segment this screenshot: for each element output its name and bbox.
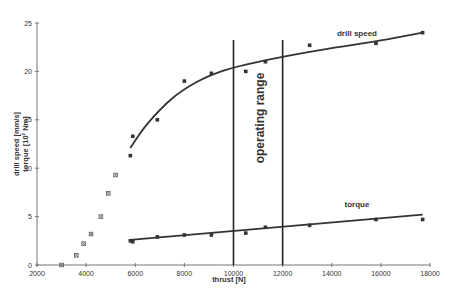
torque-point — [131, 240, 135, 244]
chart: 2000400060008000100001200014000160001800… — [0, 0, 453, 301]
y-tick-label: 5 — [28, 213, 32, 220]
tick-labels: 2000400060008000100001200014000160001800… — [24, 20, 440, 278]
initial-penetration-point — [106, 192, 110, 196]
y-axis-label-drill-speed: drill speed [mm/s] — [12, 111, 21, 176]
torque-point — [244, 231, 248, 235]
torque-point — [156, 235, 160, 239]
initial-penetration-point — [75, 254, 79, 258]
drill-speed-point — [421, 31, 425, 35]
drill-speed-point — [264, 60, 268, 64]
initial-penetration-point — [114, 173, 118, 177]
initial-penetration-point — [82, 242, 86, 246]
drill-speed-point — [129, 154, 133, 158]
drill-speed-point — [131, 134, 135, 138]
operating-range-label: operating range — [253, 72, 267, 163]
drill-speed-point — [244, 70, 248, 74]
torque-point — [210, 233, 214, 237]
y-tick-label: 0 — [28, 262, 32, 269]
y-axis-label-torque: torque [10² Nm] — [21, 116, 30, 172]
y-tick-label: 20 — [24, 68, 32, 75]
drill-speed-fit-line — [130, 33, 422, 148]
chart-svg: 2000400060008000100001200014000160001800… — [0, 0, 453, 301]
fit-curves — [130, 33, 422, 240]
x-tick-label: 12000 — [273, 270, 293, 277]
torque-point — [183, 233, 187, 237]
x-tick-label: 16000 — [371, 270, 391, 277]
initial-penetration-point — [89, 232, 93, 236]
torque-label: torque — [345, 200, 370, 209]
drill-speed-point — [374, 42, 378, 46]
x-tick-label: 8000 — [177, 270, 193, 277]
drill-speed-point — [308, 43, 312, 47]
torque-point — [421, 218, 425, 222]
y-tick-label: 25 — [24, 20, 32, 27]
x-axis-label: thrust [N] — [212, 275, 246, 284]
torque-point — [308, 224, 312, 228]
drill-speed-point — [156, 118, 160, 122]
torque-point — [264, 225, 268, 229]
x-tick-label: 4000 — [78, 270, 94, 277]
drill-speed-point — [210, 72, 214, 76]
torque-fit-line — [130, 215, 422, 240]
x-tick-label: 2000 — [29, 270, 45, 277]
x-tick-label: 14000 — [322, 270, 342, 277]
x-tick-label: 18000 — [420, 270, 440, 277]
drill-speed-point — [183, 79, 187, 83]
initial-penetration-point — [99, 215, 103, 219]
drill-speed-label: drill speed — [337, 29, 377, 38]
torque-point — [374, 218, 378, 222]
x-tick-label: 6000 — [127, 270, 143, 277]
